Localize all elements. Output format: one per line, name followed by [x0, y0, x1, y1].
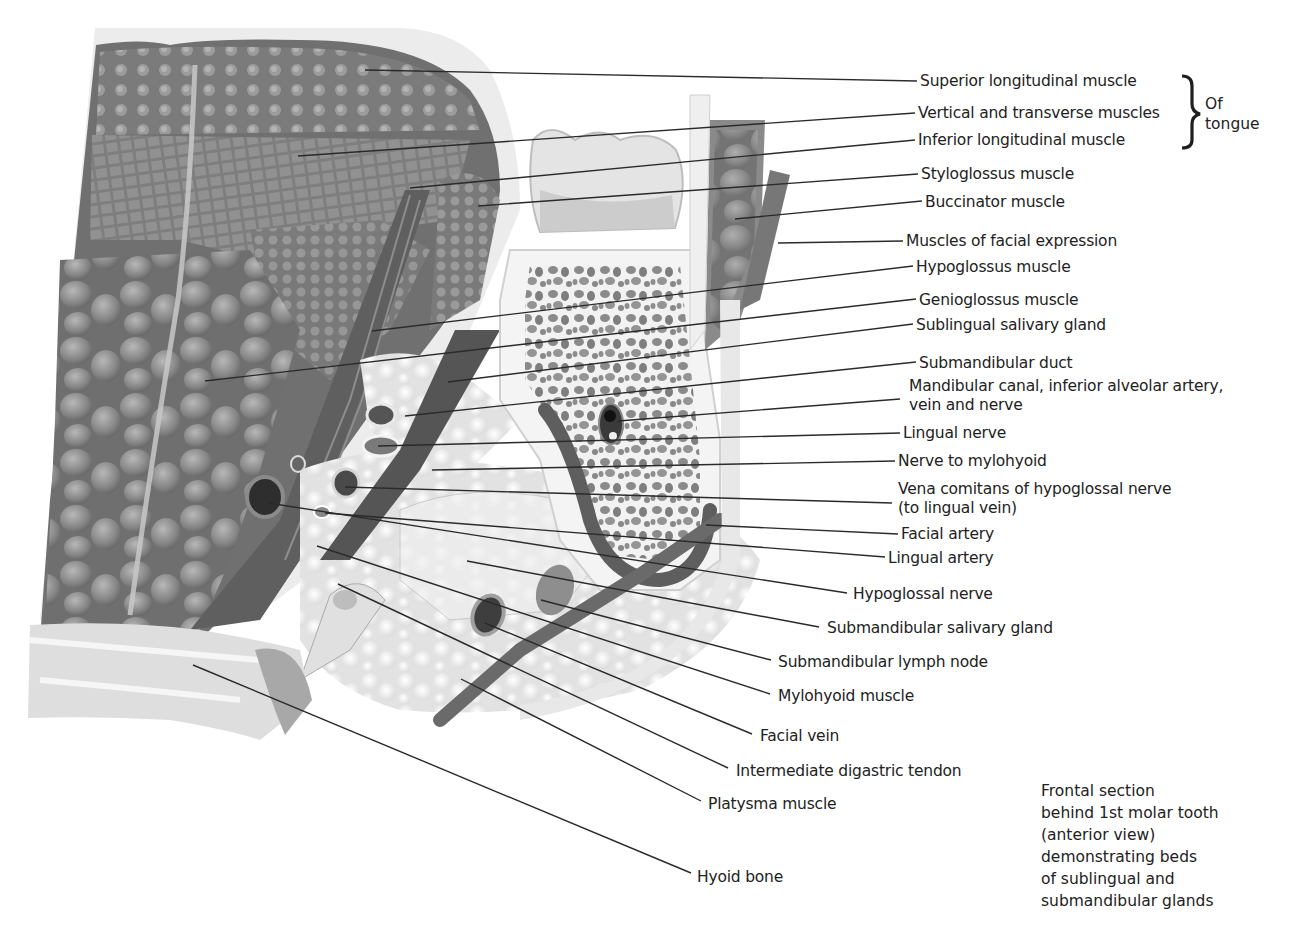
leader-line [778, 241, 903, 243]
anatomy-label: Vena comitans of hypoglossal nerve(to li… [898, 480, 1171, 518]
brace-icon [1182, 76, 1200, 148]
anatomy-label: Sublingual salivary gland [916, 316, 1106, 335]
anatomy-label: Muscles of facial expression [906, 232, 1117, 251]
anatomy-label-text: Submandibular lymph node [778, 653, 988, 672]
figure-caption: Frontal section behind 1st molar tooth (… [1041, 780, 1271, 912]
anatomy-label: Hypoglossal nerve [853, 585, 993, 604]
anatomy-label-text: Mylohyoid muscle [778, 687, 914, 706]
caption-line: (anterior view) [1041, 824, 1271, 846]
anatomy-label: Lingual nerve [903, 424, 1006, 443]
anatomy-label-text: Vena comitans of hypoglossal nerve [898, 480, 1171, 499]
anatomy-label: Buccinator muscle [925, 193, 1065, 212]
anatomy-label: Vertical and transverse muscles [918, 104, 1160, 123]
anatomy-label-text: Lingual nerve [903, 424, 1006, 443]
anatomy-label-text: Hypoglossal nerve [853, 585, 993, 604]
anatomy-label: Platysma muscle [708, 795, 836, 814]
brace-group-label: Of tongue [1205, 94, 1260, 134]
anatomy-label-text: Submandibular duct [919, 354, 1073, 373]
anatomy-label-text: Inferior longitudinal muscle [918, 131, 1125, 150]
anatomy-label: Hyoid bone [697, 868, 783, 887]
anatomy-label-text: Facial artery [901, 525, 994, 544]
anatomy-label: Genioglossus muscle [919, 291, 1078, 310]
anatomy-label-text: Lingual artery [888, 549, 993, 568]
caption-line: behind 1st molar tooth [1041, 802, 1271, 824]
caption-line: of sublingual and [1041, 868, 1271, 890]
anatomy-label-text: Hypoglossus muscle [916, 258, 1071, 277]
anatomy-label-text: Genioglossus muscle [919, 291, 1078, 310]
anatomy-label-text: Submandibular salivary gland [827, 619, 1053, 638]
caption-line: submandibular glands [1041, 890, 1271, 912]
anatomy-label: Facial artery [901, 525, 994, 544]
anatomy-label: Mylohyoid muscle [778, 687, 914, 706]
anatomy-label: Hypoglossus muscle [916, 258, 1071, 277]
anatomy-label-text: Vertical and transverse muscles [918, 104, 1160, 123]
anatomy-label-text: Intermediate digastric tendon [736, 762, 961, 781]
anatomy-label-text: Sublingual salivary gland [916, 316, 1106, 335]
anatomy-label-text: Muscles of facial expression [906, 232, 1117, 251]
anatomy-label: Nerve to mylohyoid [898, 452, 1047, 471]
anatomy-label-text: Platysma muscle [708, 795, 836, 814]
anatomy-label-text-line2: vein and nerve [909, 396, 1223, 415]
anatomy-label: Submandibular duct [919, 354, 1073, 373]
anatomy-label-text: Superior longitudinal muscle [920, 72, 1137, 91]
anatomy-label: Mandibular canal, inferior alveolar arte… [909, 377, 1223, 415]
anatomy-label-text: Buccinator muscle [925, 193, 1065, 212]
anatomy-label-text: Mandibular canal, inferior alveolar arte… [909, 377, 1223, 396]
brace-label-line1: Of [1205, 94, 1260, 114]
anatomy-label-text: Hyoid bone [697, 868, 783, 887]
caption-line: demonstrating beds [1041, 846, 1271, 868]
anatomy-label-text: Nerve to mylohyoid [898, 452, 1047, 471]
caption-line: Frontal section [1041, 780, 1271, 802]
anatomy-label-text: Facial vein [760, 727, 839, 746]
anatomy-label: Facial vein [760, 727, 839, 746]
anatomy-label: Superior longitudinal muscle [920, 72, 1137, 91]
anatomy-label-text-line2: (to lingual vein) [898, 499, 1171, 518]
anatomy-label: Submandibular lymph node [778, 653, 988, 672]
anatomy-figure: Superior longitudinal muscleVertical and… [0, 0, 1297, 947]
anatomy-label: Intermediate digastric tendon [736, 762, 961, 781]
anatomy-label: Submandibular salivary gland [827, 619, 1053, 638]
anatomy-label: Lingual artery [888, 549, 993, 568]
brace-label-line2: tongue [1205, 114, 1260, 134]
anatomy-label: Styloglossus muscle [921, 165, 1074, 184]
anatomy-label-text: Styloglossus muscle [921, 165, 1074, 184]
anatomy-label: Inferior longitudinal muscle [918, 131, 1125, 150]
